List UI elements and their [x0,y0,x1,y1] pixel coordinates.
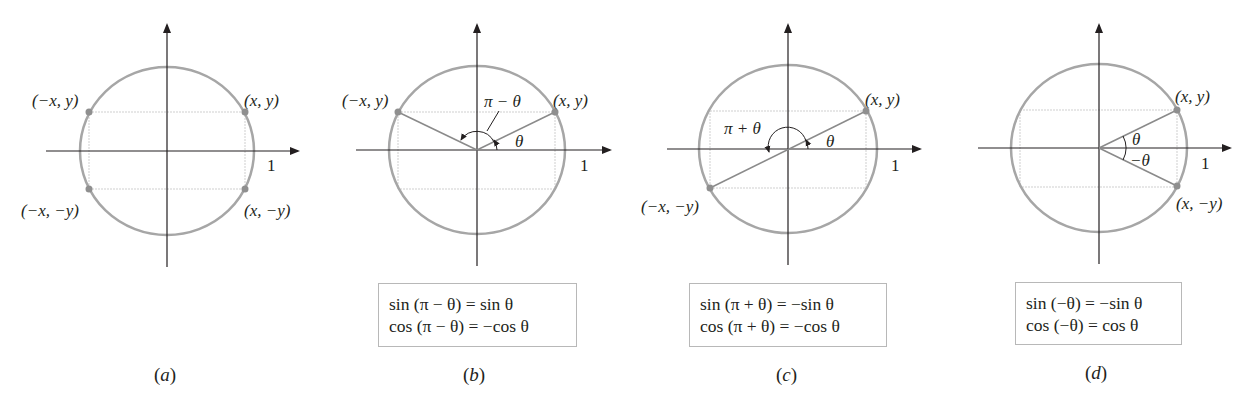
point-label: (−x, −y) [641,198,699,215]
identity-sin: sin (π − θ) = sin θ [389,293,576,315]
axis-tick-label: 1 [1201,155,1210,172]
angle-label-neg-theta: −θ [1130,152,1150,169]
panel-c-diagram [667,25,920,265]
identity-box-c: sin (π + θ) = −sin θ cos (π + θ) = −cos … [689,283,887,347]
angle-arc-pi-plus-theta [768,127,806,152]
angle-label-pi-plus-theta: π + θ [724,120,761,137]
angle-label-pi-minus-theta: π − θ [484,93,521,110]
identity-box-d: sin (−θ) = −sin θ cos (−θ) = cos θ [1015,282,1182,345]
point-label: (−x, y) [32,92,78,109]
point-marker [86,109,93,116]
identity-sin: sin (π + θ) = −sin θ [700,293,886,315]
panel-a-diagram [46,25,298,267]
identity-cos: cos (π − θ) = −cos θ [389,315,576,337]
point-marker [1174,183,1181,190]
identity-cos: cos (−θ) = cos θ [1026,314,1181,336]
panel-caption-a: (a) [154,364,176,386]
angle-label-theta: θ [1132,131,1140,148]
point-label: (x, −y) [1176,195,1222,212]
point-label: (x, y) [244,92,279,109]
identity-cos: cos (π + θ) = −cos θ [700,315,886,337]
point-label: (x, −y) [244,202,290,219]
radius-line [398,112,477,150]
point-label: (x, y) [553,92,588,109]
point-marker [707,185,714,192]
panel-d-diagram [978,25,1230,264]
panel-b-diagram [356,25,610,266]
point-label: (−x, y) [342,92,388,109]
unit-circle-figure [0,0,1248,409]
point-marker [242,186,249,193]
panel-caption-b: (b) [463,364,485,386]
point-marker [1174,107,1181,114]
angle-arc-theta [806,140,808,149]
leader-line [487,111,499,131]
point-marker [86,186,93,193]
point-label: (x, y) [1175,88,1210,105]
axis-tick-label: 1 [580,157,589,174]
axis-tick-label: 1 [891,157,900,174]
identity-box-b: sin (π − θ) = sin θ cos (π − θ) = −cos θ [378,283,577,347]
axis-tick-label: 1 [267,157,276,174]
identity-sin: sin (−θ) = −sin θ [1026,292,1181,314]
panel-caption-c: (c) [776,364,797,386]
point-marker [395,109,402,116]
panel-caption-d: (d) [1085,362,1107,384]
point-label: (x, y) [865,91,900,108]
point-label: (−x, −y) [21,202,79,219]
angle-label-theta: θ [515,133,523,150]
angle-label-theta: θ [826,133,834,150]
